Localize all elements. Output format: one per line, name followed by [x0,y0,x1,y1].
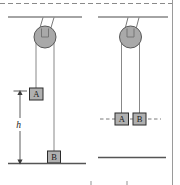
left-panel: A B h [8,17,86,165]
caption-mark-left [90,181,92,185]
right-block-a-label: A [119,114,126,124]
figure-container: A B h [0,0,180,185]
pulley-diagram-svg: A B h [0,0,180,185]
right-panel: A B [98,17,168,158]
left-block-a-label: A [33,89,40,99]
right-block-b-label: B [137,114,143,124]
h-label: h [16,120,21,130]
left-block-b-label: B [51,152,57,162]
cropped-caption-marks [90,181,128,185]
caption-mark-right [126,181,128,185]
